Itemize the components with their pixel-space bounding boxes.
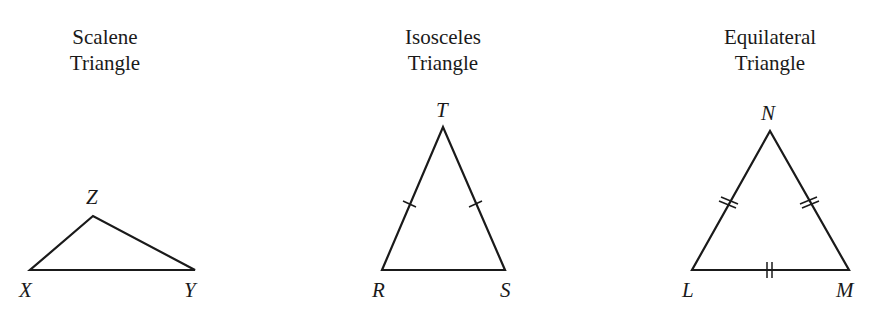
equilateral-triangle: N L M: [681, 101, 855, 302]
isosceles-triangle: T R S: [371, 98, 511, 302]
vertex-label-t: T: [436, 98, 449, 122]
scalene-triangle: Z X Y: [18, 185, 198, 302]
vertex-label-m: M: [835, 278, 855, 302]
vertex-label-y: Y: [184, 278, 198, 302]
vertex-label-n: N: [760, 101, 776, 125]
vertex-label-x: X: [18, 278, 33, 302]
vertex-label-s: S: [500, 278, 511, 302]
vertex-label-z: Z: [86, 185, 98, 209]
vertex-label-r: R: [371, 278, 385, 302]
vertex-label-l: L: [681, 278, 694, 302]
triangles-diagram: Z X Y T R S N L M: [0, 0, 870, 322]
